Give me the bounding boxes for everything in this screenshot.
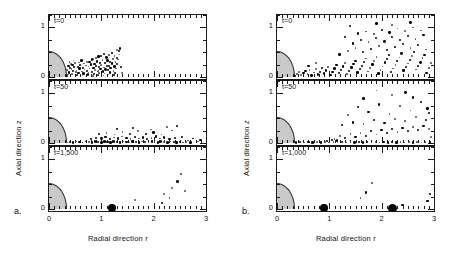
x-minor-tick <box>122 147 123 150</box>
scatter-point <box>391 94 393 96</box>
scatter-point <box>338 72 340 74</box>
x-minor-tick <box>366 147 367 150</box>
x-minor-tick <box>159 15 160 18</box>
scatter-point <box>400 141 401 142</box>
scatter-point <box>131 140 134 143</box>
scatter-point <box>327 66 329 68</box>
x-minor-tick <box>143 81 144 84</box>
scatter-point <box>97 141 99 143</box>
scatter-point <box>99 62 101 64</box>
x-minor-tick <box>408 81 409 84</box>
scatter-point <box>404 142 405 143</box>
scatter-point <box>360 132 362 134</box>
x-minor-tick <box>169 206 170 209</box>
scatter-point <box>404 91 407 94</box>
scatter-point <box>73 66 75 68</box>
subplot-a-t50-time-label: t=50 <box>54 83 68 90</box>
scatter-point <box>383 40 386 43</box>
scatter-point <box>395 141 398 144</box>
y-minor-tick <box>431 40 434 41</box>
scatter-point <box>90 63 92 65</box>
x-minor-tick <box>303 206 304 209</box>
x-minor-tick <box>361 74 362 77</box>
x-minor-tick <box>128 15 129 18</box>
scatter-point <box>315 68 317 70</box>
x-minor-tick <box>382 81 383 87</box>
scatter-point <box>66 75 68 77</box>
scatter-point <box>408 141 410 143</box>
x-minor-tick <box>70 81 71 84</box>
x-minor-tick <box>335 15 336 18</box>
x-minor-tick <box>298 74 299 77</box>
y-minor-tick <box>277 131 280 132</box>
scatter-point <box>352 63 355 66</box>
scatter-point <box>134 136 136 138</box>
scatter-point <box>423 54 425 56</box>
x-minor-tick <box>308 206 309 209</box>
x-minor-tick <box>303 74 304 77</box>
scatter-point <box>395 64 396 65</box>
x-tick-label: 3 <box>199 214 213 223</box>
scatter-point <box>296 73 298 75</box>
scatter-point <box>362 51 364 53</box>
aggregate-marker <box>108 204 116 212</box>
x-minor-tick <box>335 74 336 77</box>
x-minor-tick <box>424 206 425 209</box>
x-minor-tick <box>101 15 102 21</box>
scatter-point <box>344 62 345 63</box>
scatter-point <box>397 131 399 133</box>
x-minor-tick <box>59 140 60 143</box>
scatter-point <box>417 129 419 131</box>
x-minor-tick <box>408 74 409 77</box>
y-minor-tick <box>277 65 280 66</box>
scatter-point <box>181 136 183 138</box>
scatter-point <box>154 141 156 143</box>
scatter-point <box>425 141 426 142</box>
y-minor-tick <box>203 172 206 173</box>
scatter-point <box>363 123 365 125</box>
x-minor-tick <box>107 147 108 150</box>
scatter-point <box>402 69 405 72</box>
scatter-point <box>391 128 394 131</box>
scatter-point <box>354 136 356 138</box>
x-minor-tick <box>366 74 367 77</box>
x-minor-tick <box>70 15 71 18</box>
y-minor-tick <box>203 106 206 107</box>
y-minor-tick <box>428 159 434 160</box>
y-minor-tick <box>49 172 52 173</box>
x-minor-tick <box>112 81 113 84</box>
scatter-point <box>129 133 131 135</box>
y-tick-label: 1 <box>33 153 45 162</box>
subplot-a-t1500: t=1,500 <box>48 146 207 212</box>
scatter-point <box>352 121 355 124</box>
y-minor-tick <box>49 143 55 144</box>
scatter-point <box>98 66 100 68</box>
x-minor-tick <box>206 203 207 209</box>
panel-a: a. Axial direction z Radial direction r … <box>0 0 228 258</box>
y-tick-label: 1 <box>261 21 273 30</box>
scatter-point <box>357 106 359 108</box>
scatter-point <box>392 68 393 69</box>
scatter-point <box>323 72 325 74</box>
scatter-point <box>78 141 81 144</box>
x-minor-tick <box>133 147 134 150</box>
scatter-point <box>92 67 94 69</box>
x-minor-tick <box>418 206 419 209</box>
scatter-point <box>93 58 94 59</box>
scatter-point <box>325 69 327 71</box>
x-minor-tick <box>376 147 377 150</box>
x-minor-tick <box>133 206 134 209</box>
scatter-point <box>192 138 194 140</box>
scatter-point <box>151 140 153 142</box>
x-minor-tick <box>96 147 97 150</box>
x-minor-tick <box>143 147 144 150</box>
aggregate-marker <box>320 204 328 212</box>
x-minor-tick <box>154 203 155 209</box>
y-minor-tick <box>428 27 434 28</box>
scatter-point <box>380 129 382 131</box>
x-minor-tick <box>91 147 92 150</box>
x-minor-tick <box>371 206 372 209</box>
scatter-point <box>340 69 342 71</box>
y-minor-tick <box>277 197 280 198</box>
y-tick-label: 1 <box>261 153 273 162</box>
